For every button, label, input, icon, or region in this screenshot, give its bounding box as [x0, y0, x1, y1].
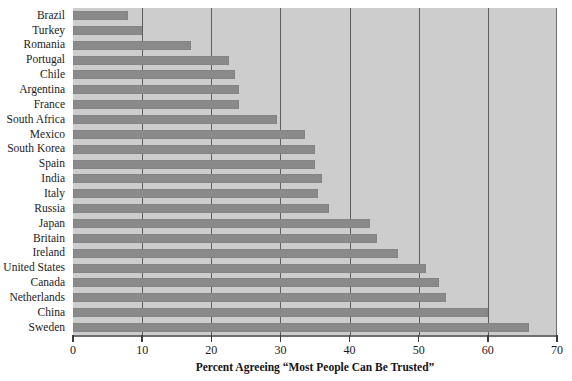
axis-tick	[487, 335, 489, 342]
axis-line	[73, 335, 557, 337]
axis-tick	[141, 335, 143, 342]
bar-row	[73, 186, 556, 201]
bar	[73, 26, 142, 35]
bar-chart-figure: BrazilTurkeyRomaniaPortugalChileArgentin…	[0, 0, 572, 381]
category-label: Turkey	[0, 23, 69, 38]
bar	[73, 264, 426, 273]
bar	[73, 145, 315, 154]
axis-tick-label: 20	[205, 343, 217, 358]
bar	[73, 85, 239, 94]
bar	[73, 11, 128, 20]
bar-row	[73, 127, 556, 142]
axis-tick-label: 30	[274, 343, 286, 358]
bar-row	[73, 305, 556, 320]
category-label: South Africa	[0, 112, 69, 127]
category-label: Russia	[0, 201, 69, 216]
axis-tick	[280, 335, 282, 342]
bar	[73, 115, 277, 124]
bar-row	[73, 246, 556, 261]
category-label: Japan	[0, 216, 69, 231]
axis-tick-label: 50	[413, 343, 425, 358]
bar	[73, 174, 322, 183]
bar-row	[73, 290, 556, 305]
bar	[73, 323, 529, 332]
axis-tick-label: 40	[344, 343, 356, 358]
category-label: India	[0, 171, 69, 186]
bar-row	[73, 67, 556, 82]
axis-tick	[72, 335, 74, 342]
axis-tick	[349, 335, 351, 342]
bar-row	[73, 320, 556, 335]
bar-row	[73, 231, 556, 246]
bar-row	[73, 261, 556, 276]
value-axis: 010203040506070 Percent Agreeing “Most P…	[73, 335, 557, 381]
bar	[73, 249, 398, 258]
plot-area	[73, 8, 557, 335]
category-label: Ireland	[0, 246, 69, 261]
bar-row	[73, 82, 556, 97]
bar	[73, 278, 439, 287]
bar-row	[73, 142, 556, 157]
category-label: Italy	[0, 186, 69, 201]
bar-series	[73, 8, 556, 335]
category-label: China	[0, 305, 69, 320]
category-label: Spain	[0, 157, 69, 172]
bar	[73, 234, 377, 243]
bar	[73, 189, 318, 198]
category-label: Netherlands	[0, 290, 69, 305]
bar	[73, 308, 488, 317]
bar	[73, 293, 446, 302]
bar-row	[73, 38, 556, 53]
category-label: South Korea	[0, 142, 69, 157]
category-label: Mexico	[0, 127, 69, 142]
bar	[73, 204, 329, 213]
category-label: Sweden	[0, 320, 69, 335]
axis-tick-label: 60	[482, 343, 494, 358]
category-label: France	[0, 97, 69, 112]
bar	[73, 130, 305, 139]
bar-row	[73, 216, 556, 231]
axis-tick-label: 0	[70, 343, 76, 358]
category-label: Canada	[0, 275, 69, 290]
bar	[73, 41, 191, 50]
axis-tick	[418, 335, 420, 342]
bar-row	[73, 275, 556, 290]
bar-row	[73, 171, 556, 186]
axis-tick	[556, 335, 558, 342]
axis-tick-label: 70	[551, 343, 563, 358]
category-label: Brazil	[0, 8, 69, 23]
category-label: Chile	[0, 67, 69, 82]
bar-row	[73, 97, 556, 112]
category-label: Portugal	[0, 53, 69, 68]
axis-tick-label: 10	[136, 343, 148, 358]
bar	[73, 100, 239, 109]
bar	[73, 56, 229, 65]
category-axis-labels: BrazilTurkeyRomaniaPortugalChileArgentin…	[0, 8, 69, 335]
bar-row	[73, 157, 556, 172]
bar-row	[73, 53, 556, 68]
bar-row	[73, 201, 556, 216]
axis-tick	[211, 335, 213, 342]
category-label: Argentina	[0, 82, 69, 97]
bar	[73, 160, 315, 169]
category-label: Romania	[0, 38, 69, 53]
bar	[73, 70, 235, 79]
x-axis-title: Percent Agreeing “Most People Can Be Tru…	[73, 361, 557, 373]
category-label: Britain	[0, 231, 69, 246]
category-label: United States	[0, 261, 69, 276]
bar-row	[73, 112, 556, 127]
bar-row	[73, 23, 556, 38]
bar	[73, 219, 370, 228]
bar-row	[73, 8, 556, 23]
